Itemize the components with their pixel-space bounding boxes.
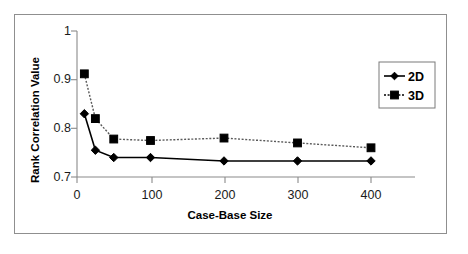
data-point-2d-200 (220, 157, 228, 165)
y-tick-label-1: 1 (64, 24, 71, 38)
y-axis (71, 31, 77, 177)
y-tick-label-0.7: 0.7 (54, 170, 71, 184)
chart-legend: 2D 3D (379, 62, 435, 108)
x-tick-label-100: 100 (142, 188, 163, 202)
x-axis-title-text: Case-Base Size (187, 209, 272, 221)
data-point-3d-100 (147, 137, 155, 145)
x-axis-tick-labels: 0 100 200 300 400 (74, 188, 382, 202)
chart-svg: Rank Correlation Value 1 0.9 0.8 0.7 (15, 15, 448, 235)
x-tick-label-200: 200 (215, 188, 236, 202)
data-point-2d-300 (293, 157, 301, 165)
y-tick-label-0.9: 0.9 (54, 72, 71, 86)
x-axis (77, 177, 415, 183)
legend-label-3d: 3D (408, 89, 424, 103)
data-point-2d-50 (110, 153, 118, 161)
data-point-2d-400 (367, 157, 375, 165)
y-axis-title: Rank Correlation Value (29, 57, 41, 183)
y-tick-label-0.8: 0.8 (54, 121, 71, 135)
series-layer (80, 70, 375, 165)
data-point-3d-25 (91, 115, 99, 123)
x-tick-label-400: 400 (361, 188, 382, 202)
y-axis-tick-labels: 1 0.9 0.8 0.7 (54, 24, 71, 184)
line-chart: Rank Correlation Value 1 0.9 0.8 0.7 (15, 15, 446, 233)
y-axis-title-text: Rank Correlation Value (29, 57, 41, 183)
legend-box (379, 62, 435, 108)
data-point-3d-10 (80, 70, 88, 78)
legend-label-2d: 2D (408, 70, 424, 84)
data-point-2d-10 (80, 110, 88, 118)
data-point-3d-300 (294, 139, 302, 147)
data-point-3d-400 (367, 144, 375, 152)
x-tick-label-0: 0 (74, 188, 81, 202)
data-point-2d-25 (91, 146, 99, 154)
x-tick-label-300: 300 (288, 188, 309, 202)
legend-marker-square (391, 91, 399, 99)
data-point-3d-200 (220, 134, 228, 142)
series-3d (80, 70, 374, 152)
data-point-2d-100 (146, 153, 154, 161)
figure-frame: Rank Correlation Value 1 0.9 0.8 0.7 (14, 14, 447, 234)
data-point-3d-50 (110, 135, 118, 143)
